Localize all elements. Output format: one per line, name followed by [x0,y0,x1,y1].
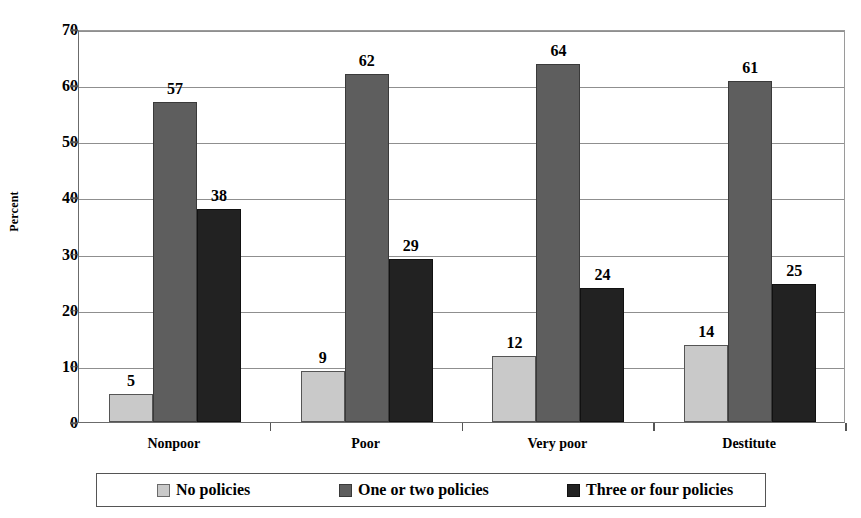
bar-value-label: 38 [183,188,255,204]
legend-item: One or two policies [339,482,489,498]
legend-swatch-one-or-two-policies [339,484,352,497]
bar-value-label: 24 [566,267,638,283]
x-tick-mark [462,423,464,431]
y-tick-mark [70,85,78,87]
y-tick-mark [70,29,78,31]
legend-label: No policies [176,482,250,498]
bar-value-label: 62 [331,53,403,69]
bar [536,64,580,422]
x-tick-mark [845,423,847,431]
y-tick-mark [70,310,78,312]
bar [389,259,433,422]
legend-label: One or two policies [358,482,489,498]
y-tick-mark [70,254,78,256]
bar-value-label: 57 [139,81,211,97]
grouped-bar-chart: Percent 010203040506070 5573896229126424… [0,0,861,518]
x-category-label: Very poor [527,436,587,452]
legend-swatch-no-policies [157,484,170,497]
legend-swatch-three-or-four-policies [567,484,580,497]
legend-item: Three or four policies [567,482,733,498]
x-category-label: Poor [351,436,380,452]
plot-area: 5573896229126424146125 [78,30,845,423]
x-category-label: Destitute [722,436,776,452]
gridline [79,31,844,32]
x-tick-mark [270,423,272,431]
bar [109,394,153,422]
bar [772,284,816,422]
x-tick-mark [653,423,655,431]
bar [301,371,345,422]
bar [492,356,536,422]
bar-value-label: 29 [375,238,447,254]
bar [684,345,728,422]
bar [153,102,197,422]
legend-label: Three or four policies [586,482,733,498]
chart-legend: No policiesOne or two policiesThree or f… [96,473,766,507]
x-category-label: Nonpoor [147,436,200,452]
y-tick-mark [70,142,78,144]
bar-value-label: 64 [522,43,594,59]
legend-item: No policies [157,482,250,498]
bar [580,288,624,422]
bar-value-label: 25 [758,263,830,279]
y-tick-mark [70,422,78,424]
y-tick-mark [70,366,78,368]
bar [197,209,241,422]
bar [728,81,772,422]
bar-value-label: 61 [714,60,786,76]
y-tick-mark [70,198,78,200]
y-axis-tick-labels: 010203040506070 [0,0,78,518]
